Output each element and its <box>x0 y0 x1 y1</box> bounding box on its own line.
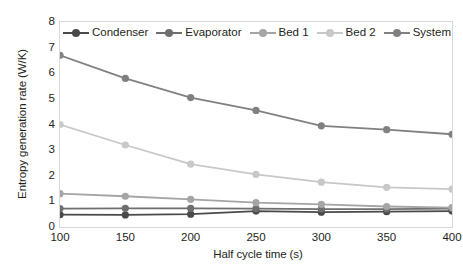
y-tick-label: 3 <box>31 144 55 156</box>
y-tick-label: 7 <box>31 42 55 54</box>
legend-label: Bed 1 <box>279 27 309 38</box>
plot-area <box>59 21 453 228</box>
x-tick-label: 400 <box>430 232 463 244</box>
y-tick-label: 2 <box>31 170 55 182</box>
y-tick-label: 1 <box>31 195 55 207</box>
data-point <box>383 126 390 133</box>
legend-item-bed-2[interactable]: Bed 2 <box>317 27 376 38</box>
data-point <box>60 52 64 59</box>
legend-label: Evaporator <box>185 27 241 38</box>
y-tick-label: 5 <box>31 93 55 105</box>
legend-marker-icon <box>317 28 343 38</box>
legend-marker-icon <box>156 28 182 38</box>
x-axis-tick-labels: 100150200250300350400 <box>59 232 453 248</box>
x-tick-label: 150 <box>103 232 147 244</box>
data-point <box>60 205 64 212</box>
x-tick-label: 100 <box>38 232 82 244</box>
data-point <box>448 131 452 138</box>
legend-item-system[interactable]: System <box>384 27 451 38</box>
legend-marker-icon <box>250 28 276 38</box>
entropy-generation-line-chart: Entropy generation rate (W/K) 012345678 … <box>0 0 463 273</box>
data-point <box>318 179 325 186</box>
x-tick-label: 250 <box>234 232 278 244</box>
legend-item-condenser[interactable]: Condenser <box>63 27 148 38</box>
legend-item-evaporator[interactable]: Evaporator <box>156 27 241 38</box>
series-bed-2 <box>60 121 452 193</box>
series-line <box>60 55 452 134</box>
data-point <box>252 171 259 178</box>
data-point <box>122 75 129 82</box>
y-tick-label: 8 <box>31 16 55 28</box>
legend-label: Condenser <box>92 27 148 38</box>
chart-legend: CondenserEvaporatorBed 1Bed 2System <box>63 24 451 41</box>
data-point <box>187 196 194 203</box>
data-point <box>448 185 452 192</box>
x-tick-label: 300 <box>299 232 343 244</box>
data-point <box>122 205 129 212</box>
data-point <box>187 94 194 101</box>
x-tick-label: 350 <box>365 232 409 244</box>
data-point <box>383 184 390 191</box>
y-tick-label: 4 <box>31 119 55 131</box>
data-point <box>252 199 259 206</box>
data-point <box>60 190 64 197</box>
data-point <box>318 122 325 129</box>
legend-marker-icon <box>384 28 410 38</box>
data-point <box>383 203 390 210</box>
legend-label: Bed 2 <box>346 27 376 38</box>
data-point <box>60 121 64 128</box>
plot-series-svg <box>60 22 452 227</box>
data-point <box>187 205 194 212</box>
data-point <box>318 201 325 208</box>
y-tick-label: 6 <box>31 67 55 79</box>
series-line <box>60 125 452 190</box>
data-point <box>122 141 129 148</box>
legend-marker-icon <box>63 28 89 38</box>
x-tick-label: 200 <box>169 232 213 244</box>
y-axis-tick-labels: 012345678 <box>27 21 55 228</box>
legend-label: System <box>413 27 451 38</box>
data-point <box>122 193 129 200</box>
x-axis-title: Half cycle time (s) <box>58 248 458 260</box>
data-point <box>122 211 129 218</box>
data-point <box>60 211 64 218</box>
data-point <box>252 107 259 114</box>
series-system <box>60 52 452 138</box>
legend-item-bed-1[interactable]: Bed 1 <box>250 27 309 38</box>
data-point <box>187 161 194 168</box>
